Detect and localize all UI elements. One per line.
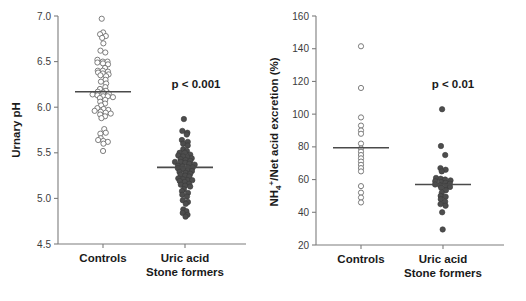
data-point (358, 115, 363, 120)
y-tick-label: 80 (298, 141, 310, 152)
data-point (110, 95, 115, 100)
data-point (358, 85, 363, 90)
y-axis-title: Urnary pH (10, 102, 22, 158)
data-point (358, 131, 363, 136)
y-tick-label: 7.0 (37, 11, 51, 22)
data-point (95, 60, 100, 65)
series-uric-acid (157, 116, 213, 219)
x-category-label: Controls (337, 253, 384, 265)
data-point (101, 41, 106, 46)
data-point (358, 195, 363, 200)
data-point (443, 203, 448, 208)
series-controls (333, 44, 389, 205)
p-value-annotation: p < 0.01 (432, 78, 475, 90)
data-point (103, 130, 108, 135)
data-point (103, 50, 108, 55)
data-point (99, 16, 104, 21)
x-category-label: Uric acidStone formers (146, 252, 224, 278)
data-point (358, 123, 363, 128)
y-tick-label: 5.5 (37, 147, 51, 158)
data-point (358, 184, 363, 189)
data-point (183, 214, 188, 219)
data-point (439, 210, 444, 215)
data-point (358, 200, 363, 205)
data-point (438, 143, 443, 148)
data-point (185, 143, 190, 148)
y-tick-label: 5.0 (37, 193, 51, 204)
data-point (90, 92, 95, 97)
data-point (358, 141, 363, 146)
data-point (438, 201, 443, 206)
data-point (358, 169, 363, 174)
data-point (180, 128, 185, 133)
data-point (187, 184, 192, 189)
data-point (100, 35, 105, 40)
y-tick-label: 140 (292, 43, 309, 54)
y-tick-label: 4.5 (37, 239, 51, 250)
x-category-label: Uric acidStone formers (404, 253, 482, 279)
data-point (439, 107, 444, 112)
y-tick-label: 20 (298, 240, 310, 251)
y-tick-label: 120 (292, 76, 309, 87)
data-point (184, 132, 189, 137)
y-tick-label: 40 (298, 207, 310, 218)
x-category-label: Controls (79, 252, 126, 264)
data-point (358, 190, 363, 195)
data-point (181, 116, 186, 121)
data-point (100, 148, 105, 153)
y-tick-label: 6.5 (37, 56, 51, 67)
data-point (440, 227, 445, 232)
y-tick-label: 6.0 (37, 102, 51, 113)
data-point (98, 79, 103, 84)
figure-container: 4.55.05.56.06.57.0Urnary pHp < 0.001Cont… (0, 0, 526, 301)
series-uric-acid (415, 107, 471, 233)
dot-plot-figure: 4.55.05.56.06.57.0Urnary pHp < 0.001Cont… (0, 0, 526, 301)
data-point (98, 73, 103, 78)
y-tick-label: 160 (292, 11, 309, 22)
series-controls (75, 16, 131, 153)
p-value-annotation: p < 0.001 (172, 78, 222, 90)
data-point (108, 111, 113, 116)
data-point (443, 194, 448, 199)
data-point (183, 201, 188, 206)
data-point (99, 116, 104, 121)
data-point (443, 152, 448, 157)
data-point (358, 44, 363, 49)
data-point (101, 141, 106, 146)
data-point (96, 137, 101, 142)
data-point (92, 108, 97, 113)
panel-nh4: 20406080100120140160NH4+/Net acid excret… (267, 11, 504, 280)
y-tick-label: 100 (292, 109, 309, 120)
panel-ph: 4.55.05.56.06.57.0Urnary pHp < 0.001Cont… (10, 11, 246, 279)
y-tick-label: 60 (298, 174, 310, 185)
data-point (439, 169, 444, 174)
y-axis-title: NH4+/Net acid excretion (%) (267, 57, 283, 206)
